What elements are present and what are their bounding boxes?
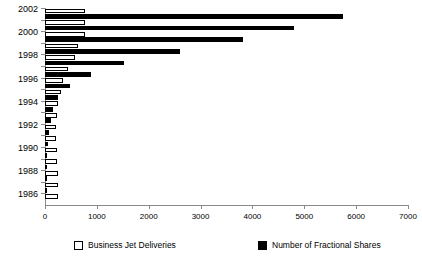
x-axis-tick-label: 0 [25, 212, 65, 222]
y-axis-tick-label: 1992 [0, 120, 38, 130]
x-axis-tick-label: 4000 [232, 212, 272, 222]
bar-1994-deliveries [45, 101, 58, 106]
y-axis-tick-label: 1988 [0, 166, 38, 176]
bar-1997-shares [45, 72, 91, 77]
bar-1996-deliveries [45, 78, 63, 83]
x-axis-line [45, 205, 409, 206]
bar-1999-deliveries [45, 44, 78, 49]
bar-1990-shares [45, 153, 47, 158]
bar-1993-shares [45, 118, 51, 123]
x-axis-tick-label: 6000 [336, 212, 376, 222]
y-axis-tick-label: 2000 [0, 27, 38, 37]
bar-1988-shares [45, 176, 47, 181]
legend-swatch-black [258, 241, 267, 250]
bar-1992-deliveries [45, 125, 56, 130]
bar-1995-shares [45, 95, 58, 100]
bar-1989-shares [45, 165, 47, 170]
bar-1992-shares [45, 130, 49, 135]
x-axis-tick-label: 1000 [77, 212, 117, 222]
bar-2000-shares [45, 37, 243, 42]
bar-2000-deliveries [45, 32, 85, 37]
bar-1998-deliveries [45, 55, 75, 60]
chart-legend: Business Jet DeliveriesNumber of Fractio… [0, 238, 422, 258]
bar-1993-deliveries [45, 113, 57, 118]
y-axis-tick-label: 1996 [0, 74, 38, 84]
bar-1987-deliveries [45, 183, 58, 188]
bar-1998-shares [45, 61, 124, 66]
bar-1997-deliveries [45, 67, 68, 72]
x-axis-tick [304, 205, 305, 209]
y-axis-tick-label: 2002 [0, 4, 38, 14]
bar-chart: 01000200030004000500060007000 2002200019… [0, 0, 422, 266]
bar-1986-deliveries [45, 194, 58, 199]
bar-1999-shares [45, 49, 180, 54]
x-axis-tick [97, 205, 98, 209]
bar-1988-deliveries [45, 171, 58, 176]
x-axis-tick-label: 5000 [284, 212, 324, 222]
bar-2001-shares [45, 26, 294, 31]
bar-1994-shares [45, 107, 53, 112]
bar-1995-deliveries [45, 90, 61, 95]
plot-area [45, 8, 408, 205]
x-axis-tick [252, 205, 253, 209]
y-axis-tick-label: 1998 [0, 50, 38, 60]
bar-2001-deliveries [45, 20, 85, 25]
x-axis-tick-label: 2000 [129, 212, 169, 222]
y-axis-tick-label: 1986 [0, 189, 38, 199]
legend-entry: Number of Fractional Shares [258, 240, 381, 251]
legend-label: Number of Fractional Shares [272, 240, 381, 251]
x-axis-tick [45, 205, 46, 209]
x-axis-tick-label: 7000 [388, 212, 422, 222]
x-axis-tick-label: 3000 [181, 212, 221, 222]
legend-swatch-white [74, 241, 83, 250]
x-axis-tick [201, 205, 202, 209]
legend-label: Business Jet Deliveries [88, 240, 176, 251]
legend-entry: Business Jet Deliveries [74, 240, 176, 251]
bar-1987-shares [45, 188, 47, 193]
y-axis-tick-label: 1990 [0, 143, 38, 153]
x-axis-tick [356, 205, 357, 209]
y-axis-tick-label: 1994 [0, 97, 38, 107]
bar-1996-shares [45, 84, 70, 89]
bar-1991-shares [45, 142, 48, 147]
bar-1991-deliveries [45, 136, 56, 141]
bar-1989-deliveries [45, 159, 57, 164]
bar-2002-shares [45, 14, 343, 19]
bar-2002-deliveries [45, 9, 85, 14]
bar-1990-deliveries [45, 148, 57, 153]
x-axis-tick [408, 205, 409, 209]
x-axis-tick [149, 205, 150, 209]
